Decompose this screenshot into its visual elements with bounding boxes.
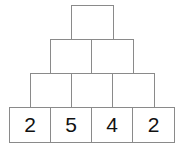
pyramid-cell-r4c3: 4 [91,107,133,143]
pyramid-cell-r1c1 [71,5,114,40]
pyramid-cell-r4c1: 2 [9,107,51,143]
pyramid-cell-r3c2 [71,73,113,108]
pyramid-cell-r4c4: 2 [132,107,175,143]
pyramid-cell-r3c1 [30,73,72,108]
pyramid-cell-r3c3 [112,73,155,108]
pyramid-cell-r2c2 [91,39,134,74]
pyramid-cell-r4c2: 5 [50,107,92,143]
pyramid-cell-r2c1 [50,39,92,74]
